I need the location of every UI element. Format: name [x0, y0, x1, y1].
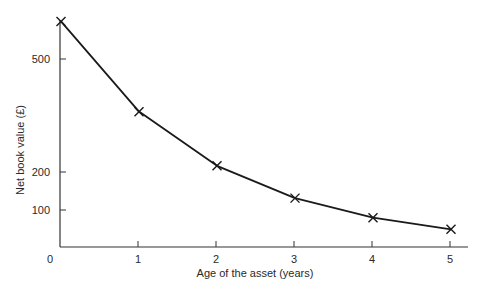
chart-canvas: 500 200 100 0 1 2 3 4 5 Age of the asset…: [0, 0, 483, 294]
y-tick-label-100: 100: [32, 204, 50, 216]
y-axis-title: Net book value (£): [14, 105, 26, 195]
y-ticks: 500 200 100: [32, 53, 66, 216]
x-tick-label-2: 2: [213, 253, 219, 265]
data-point-marker-x-icon: [135, 107, 144, 116]
data-point-marker-x-icon: [57, 17, 66, 26]
origin-label: 0: [47, 253, 53, 265]
y-tick-label-500: 500: [32, 53, 50, 65]
series-line-net-book-value: [61, 21, 451, 229]
axes: [60, 20, 468, 247]
x-tick-label-3: 3: [291, 253, 297, 265]
x-tick-label-1: 1: [135, 253, 141, 265]
data-point-marker-x-icon: [213, 161, 222, 170]
data-point-markers: [57, 17, 456, 234]
x-tick-label-4: 4: [369, 253, 375, 265]
x-tick-label-5: 5: [447, 253, 453, 265]
x-ticks: 0 1 2 3 4 5: [47, 241, 453, 265]
x-axis-title: Age of the asset (years): [197, 267, 314, 279]
y-tick-label-200: 200: [32, 166, 50, 178]
